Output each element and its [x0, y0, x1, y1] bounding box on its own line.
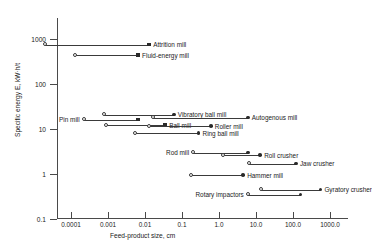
- x-tick-label: 0.01: [139, 221, 151, 228]
- x-tick-mark: [145, 212, 146, 218]
- series-label: Hammer mill: [247, 172, 283, 180]
- x-tick-mark: [330, 212, 331, 218]
- feed-size-marker-icon: [189, 173, 193, 177]
- series-label: Fluid-energy mill: [142, 52, 189, 60]
- series-label: Attrition mill: [153, 41, 186, 49]
- range-line: [149, 126, 211, 127]
- x-tick-mark: [108, 212, 109, 218]
- y-tick-mark: [50, 219, 57, 220]
- range-line: [135, 133, 198, 134]
- range-line: [191, 175, 244, 176]
- range-line: [75, 55, 138, 56]
- feed-size-marker-icon: [147, 124, 151, 128]
- y-tick-mark: [50, 84, 57, 85]
- y-tick-label: 100: [18, 81, 46, 88]
- feed-size-marker-icon: [221, 153, 225, 157]
- x-tick-mark: [256, 212, 257, 218]
- product-size-marker-icon: [209, 124, 213, 128]
- x-tick-mark: [182, 212, 183, 218]
- series-range-bar: Jaw crusher: [0, 160, 355, 169]
- series-label: Ring ball mill: [203, 130, 239, 138]
- x-tick-mark: [219, 212, 220, 218]
- x-tick-label: 10.0: [250, 221, 262, 228]
- x-tick-label: 1000.0: [320, 221, 340, 228]
- range-line: [45, 45, 149, 46]
- range-line: [249, 164, 296, 165]
- x-axis-title: Feed-product size, cm: [110, 232, 175, 240]
- product-size-marker-icon: [241, 173, 245, 177]
- product-size-marker-icon: [299, 193, 303, 197]
- product-size-marker-icon: [197, 131, 201, 135]
- product-size-marker-icon: [258, 153, 262, 157]
- x-tick-label: 0.1: [178, 221, 187, 228]
- x-axis-line: [57, 218, 348, 219]
- x-tick-label: 100.0: [285, 221, 301, 228]
- series-range-bar: Attrition mill: [0, 41, 355, 50]
- x-tick-label: 0.001: [100, 221, 116, 228]
- x-tick-mark: [71, 212, 72, 218]
- product-size-marker-icon: [147, 43, 150, 46]
- x-tick-label: 1.0: [215, 221, 224, 228]
- product-size-marker-icon: [136, 53, 139, 56]
- series-range-bar: Fluid-energy mill: [0, 51, 355, 60]
- series-range-bar: Rotary impactors: [0, 191, 355, 200]
- x-tick-mark: [293, 212, 294, 218]
- x-tick-label: 0.0001: [61, 221, 81, 228]
- series-range-bar: Ring ball mill: [0, 129, 355, 138]
- series-label: Jaw crusher: [300, 160, 334, 168]
- series-label: Rotary impactors: [195, 191, 243, 199]
- product-size-marker-icon: [294, 162, 298, 166]
- series-range-bar: Hammer mill: [0, 171, 355, 180]
- y-tick-label: 0.1: [18, 216, 46, 223]
- series-label: Roll crusher: [264, 152, 298, 160]
- range-line: [248, 195, 301, 196]
- range-line: [223, 155, 260, 156]
- feed-size-marker-icon: [246, 192, 250, 196]
